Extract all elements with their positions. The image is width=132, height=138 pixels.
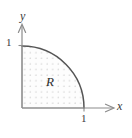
- quarter-circle-region-figure: y x 1 1 R: [0, 0, 132, 138]
- y-axis-label: y: [20, 10, 25, 22]
- x-axis-tick-label-1: 1: [81, 113, 87, 124]
- x-axis-label: x: [117, 100, 122, 112]
- y-axis-tick-label-1: 1: [6, 37, 12, 48]
- region-label: R: [46, 75, 54, 88]
